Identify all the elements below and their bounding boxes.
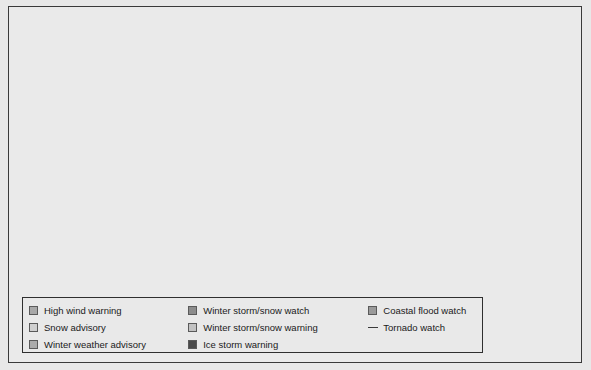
swatch-ice-storm-warning: [188, 340, 197, 349]
legend-label-ice-storm-warning: Ice storm warning: [203, 339, 278, 350]
legend-item-high-wind-warning[interactable]: High wind warning: [29, 303, 188, 318]
legend-column-3: Coastal flood watch Tornado watch: [368, 303, 482, 335]
legend-column-1: High wind warning Snow advisory Winter w…: [29, 303, 188, 352]
legend-label-tornado-watch: Tornado watch: [383, 322, 445, 333]
legend-label-snow-advisory: Snow advisory: [44, 322, 106, 333]
swatch-winter-storm-snow-warning: [188, 323, 197, 332]
legend-item-winter-storm-snow-watch[interactable]: Winter storm/snow watch: [188, 303, 368, 318]
legend-item-snow-advisory[interactable]: Snow advisory: [29, 320, 188, 335]
legend-item-winter-storm-snow-warning[interactable]: Winter storm/snow warning: [188, 320, 368, 335]
swatch-snow-advisory: [29, 323, 38, 332]
weather-map-page: High wind warning Snow advisory Winter w…: [0, 0, 591, 370]
legend-item-coastal-flood-watch[interactable]: Coastal flood watch: [368, 303, 482, 318]
legend-item-ice-storm-warning[interactable]: Ice storm warning: [188, 337, 368, 352]
legend-label-winter-storm-snow-warning: Winter storm/snow warning: [203, 322, 318, 333]
legend-label-winter-weather-advisory: Winter weather advisory: [44, 339, 146, 350]
swatch-winter-storm-snow-watch: [188, 306, 197, 315]
legend-item-winter-weather-advisory[interactable]: Winter weather advisory: [29, 337, 188, 352]
legend-label-winter-storm-snow-watch: Winter storm/snow watch: [203, 305, 309, 316]
legend-label-high-wind-warning: High wind warning: [44, 305, 122, 316]
swatch-winter-weather-advisory: [29, 340, 38, 349]
legend-item-tornado-watch[interactable]: Tornado watch: [368, 320, 482, 335]
legend-column-2: Winter storm/snow watch Winter storm/sno…: [188, 303, 368, 352]
line-marker-tornado-watch: [368, 323, 377, 332]
swatch-high-wind-warning: [29, 306, 38, 315]
map-legend: High wind warning Snow advisory Winter w…: [22, 297, 483, 353]
legend-label-coastal-flood-watch: Coastal flood watch: [383, 305, 466, 316]
swatch-coastal-flood-watch: [368, 306, 377, 315]
